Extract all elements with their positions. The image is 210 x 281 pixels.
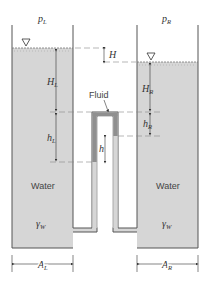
free-surface-right-icon — [147, 53, 155, 60]
right-tank — [137, 25, 198, 248]
label-AL: AL — [37, 259, 48, 271]
label-water-left: Water — [31, 181, 55, 191]
label-AR: AR — [161, 259, 172, 271]
label-fluid: Fluid — [89, 90, 109, 100]
free-surface-left-icon — [22, 39, 30, 46]
fluid-left-leg — [93, 113, 97, 163]
label-h: h — [99, 143, 104, 154]
manometer-diagram: pL pR H HL hL HR hR h Fluid Water Water … — [0, 0, 210, 281]
label-pR: pR — [161, 13, 171, 25]
label-H: H — [108, 49, 117, 60]
label-pL: pL — [37, 13, 47, 25]
fluid-right-leg — [114, 113, 118, 137]
u-tube-manometer — [73, 112, 137, 232]
left-tank — [12, 25, 73, 248]
label-water-right: Water — [156, 181, 180, 191]
